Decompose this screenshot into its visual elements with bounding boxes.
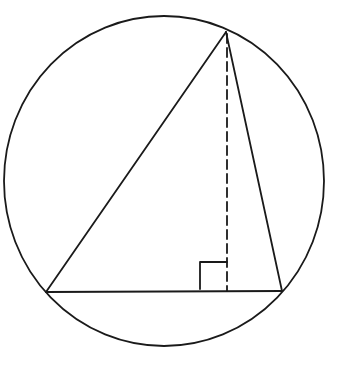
triangle-side-left: [46, 32, 226, 292]
triangle-side-right: [226, 32, 282, 291]
circumscribed-circle: [4, 16, 324, 346]
triangle-base: [46, 291, 282, 292]
inscribed-triangle-diagram: [0, 0, 345, 370]
right-angle-marker: [200, 262, 227, 289]
